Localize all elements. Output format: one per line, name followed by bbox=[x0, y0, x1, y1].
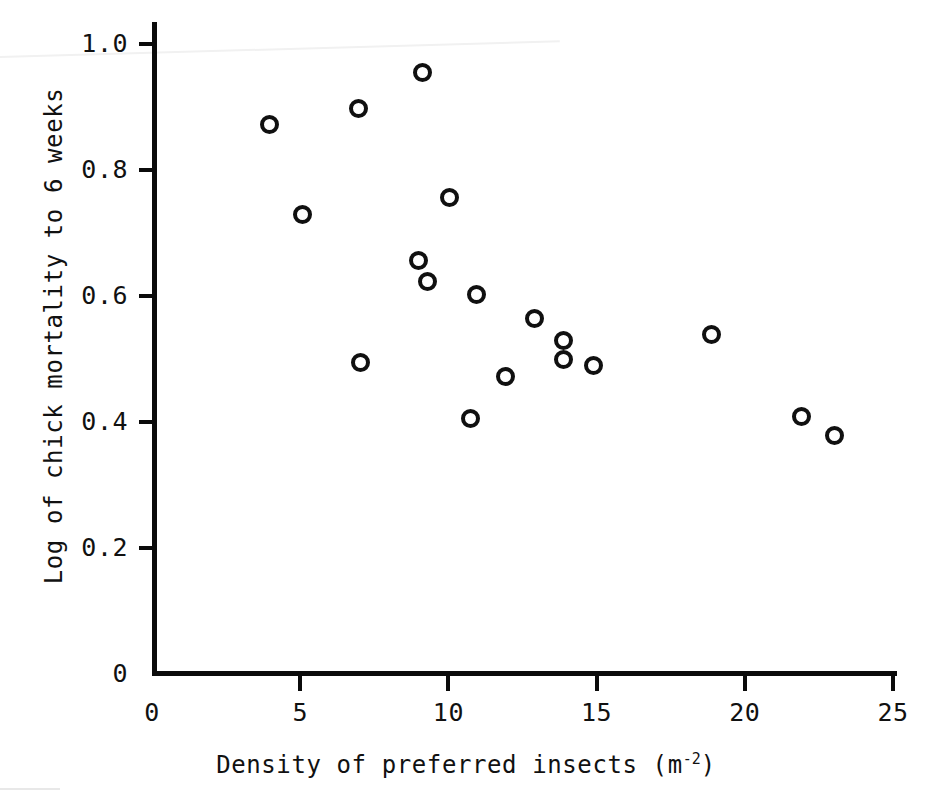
data-point bbox=[418, 272, 437, 291]
data-point bbox=[461, 409, 480, 428]
data-point bbox=[293, 205, 312, 224]
data-point bbox=[467, 285, 486, 304]
data-point bbox=[825, 426, 844, 445]
x-axis-title-main: Density of preferred insects (m bbox=[216, 751, 683, 779]
data-point bbox=[584, 356, 603, 375]
x-axis-title-superscript: -2 bbox=[683, 750, 701, 768]
data-point bbox=[440, 188, 459, 207]
data-point bbox=[496, 367, 515, 386]
data-point bbox=[349, 99, 368, 118]
y-axis-title: Log of chick mortality to 6 weeks bbox=[40, 56, 68, 616]
data-point bbox=[792, 407, 811, 426]
data-point bbox=[554, 331, 573, 350]
scatter-plot-figure: 00.20.40.60.81.00510152025 Density of pr… bbox=[0, 0, 932, 799]
data-point bbox=[525, 309, 544, 328]
data-points-layer bbox=[0, 0, 932, 799]
x-axis-title: Density of preferred insects (m-2) bbox=[0, 750, 932, 779]
x-axis-title-tail: ) bbox=[701, 751, 716, 779]
data-point bbox=[351, 353, 370, 372]
data-point bbox=[702, 325, 721, 344]
data-point bbox=[409, 251, 428, 270]
data-point bbox=[413, 63, 432, 82]
data-point bbox=[260, 115, 279, 134]
data-point bbox=[554, 350, 573, 369]
